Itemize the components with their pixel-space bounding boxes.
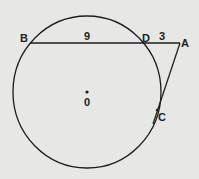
label-bd-length: 9 [84, 30, 90, 42]
diagram-svg: B D A C 9 3 0 [0, 0, 199, 179]
label-d: D [142, 32, 150, 44]
center-point [85, 90, 88, 93]
label-center-o: 0 [84, 96, 90, 108]
label-b: B [20, 32, 28, 44]
label-da-length: 3 [159, 30, 165, 42]
label-a: A [181, 37, 189, 49]
label-c: C [158, 111, 166, 123]
geometry-diagram: B D A C 9 3 0 [0, 0, 199, 179]
